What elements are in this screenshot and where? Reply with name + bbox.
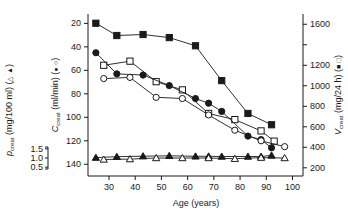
y-left-tick-label: 120 bbox=[66, 136, 81, 146]
x-tick-label: 80 bbox=[235, 182, 245, 192]
y-right-ticks: 160012001000800600400200 bbox=[303, 19, 330, 173]
marker-filled-circle bbox=[268, 145, 274, 151]
x-tick-label: 70 bbox=[209, 182, 219, 192]
chart-figure: 14012010080604020 1600120010008006004002… bbox=[0, 0, 348, 218]
y-right-tick-label: 800 bbox=[310, 101, 325, 111]
marker-filled-square bbox=[192, 43, 198, 49]
marker-open-circle bbox=[127, 74, 133, 80]
marker-filled-square bbox=[268, 122, 274, 128]
x-tick-label: 40 bbox=[130, 182, 140, 192]
y-left-tick-label: 20 bbox=[71, 18, 81, 28]
y-right-axis-title: Vcreat (mg/24 h) (■ □) bbox=[333, 55, 344, 135]
x-tick-label: 60 bbox=[183, 182, 193, 192]
x-axis-title: Age (years) bbox=[173, 198, 220, 208]
svg-text:Vcreat (mg/24 h) (■ □): Vcreat (mg/24 h) (■ □) bbox=[333, 55, 344, 135]
y-left-tick-label: 100 bbox=[66, 112, 81, 122]
y-p-title-sub: creat bbox=[9, 137, 15, 151]
marker-open-circle bbox=[258, 138, 264, 144]
marker-open-circle bbox=[101, 75, 107, 81]
y-right-title-unit: (mg/24 h) ( bbox=[333, 69, 343, 116]
y-left-tick-label: 140 bbox=[66, 159, 81, 169]
marker-open-circle bbox=[282, 144, 288, 150]
marker-filled-circle bbox=[140, 72, 146, 78]
y-p-axis-title: pcreat (mg/100 ml) (△ ▲) bbox=[4, 64, 15, 157]
y-right-tick-label: 600 bbox=[310, 122, 325, 132]
y-left-title-sub: creat bbox=[55, 112, 61, 126]
y-right-tick-label: 1200 bbox=[310, 60, 330, 70]
y-p-title-unit: (mg/100 ml) ( bbox=[4, 82, 14, 138]
series-v-creat-women bbox=[101, 58, 278, 144]
y-p-axis: 1.51.00.5 bbox=[30, 144, 48, 172]
marker-open-circle bbox=[206, 112, 212, 118]
marker-filled-circle bbox=[206, 100, 212, 106]
y-right-tick-label: 200 bbox=[310, 163, 325, 173]
marker-filled-circle bbox=[166, 83, 172, 89]
data-series-layer bbox=[92, 20, 288, 162]
y-left-title-unit: (ml/min) ( bbox=[50, 72, 60, 113]
marker-filled-circle bbox=[93, 50, 99, 56]
x-tick-label: 30 bbox=[104, 182, 114, 192]
creatinine-age-chart: 14012010080604020 1600120010008006004002… bbox=[0, 0, 348, 218]
x-tick-label: 100 bbox=[285, 182, 300, 192]
y-left-title-close: ) bbox=[50, 58, 60, 61]
marker-open-square bbox=[258, 128, 264, 134]
marker-open-circle bbox=[232, 127, 238, 133]
y-right-tick-label: 1000 bbox=[310, 81, 330, 91]
y-left-tick-label: 60 bbox=[71, 65, 81, 75]
marker-filled-square bbox=[114, 32, 120, 38]
y-right-title-sub: creat bbox=[338, 115, 344, 129]
marker-filled-square bbox=[219, 78, 225, 84]
marker-filled-triangle bbox=[268, 152, 275, 158]
marker-filled-circle bbox=[192, 95, 198, 101]
y-left-axis-title: Ccreat (ml/min) (● ○) bbox=[50, 58, 61, 132]
y-p-title-filled-triangle-icon: ▲ bbox=[6, 67, 13, 74]
y-right-tick-label: 400 bbox=[310, 142, 325, 152]
marker-filled-circle bbox=[219, 108, 225, 114]
x-tick-label: 90 bbox=[261, 182, 271, 192]
series-c-creat-women bbox=[101, 74, 288, 149]
marker-filled-square bbox=[245, 110, 251, 116]
series-line bbox=[104, 77, 285, 146]
svg-text:pcreat (mg/100 ml) (△ ▲): pcreat (mg/100 ml) (△ ▲) bbox=[4, 64, 15, 157]
marker-open-circle bbox=[179, 95, 185, 101]
y-p-title-close: ) bbox=[4, 64, 14, 67]
x-tick-label: 50 bbox=[156, 182, 166, 192]
y-p-tick-label: 0.5 bbox=[30, 162, 43, 172]
y-left-tick-label: 80 bbox=[71, 89, 81, 99]
marker-filled-circle bbox=[114, 71, 120, 77]
series-line bbox=[104, 61, 275, 141]
y-left-tick-label: 40 bbox=[71, 42, 81, 52]
y-right-title-close: ) bbox=[333, 55, 343, 58]
marker-filled-square bbox=[93, 20, 99, 26]
marker-filled-square bbox=[140, 31, 146, 37]
marker-filled-square bbox=[166, 34, 172, 40]
y-left-ticks: 14012010080604020 bbox=[66, 18, 88, 169]
marker-open-circle bbox=[153, 94, 159, 100]
svg-text:Ccreat (ml/min) (● ○): Ccreat (ml/min) (● ○) bbox=[50, 58, 61, 132]
y-right-tick-label: 1600 bbox=[310, 19, 330, 29]
x-axis-ticks: 30405060708090100 bbox=[104, 176, 300, 192]
marker-open-square bbox=[127, 58, 133, 64]
